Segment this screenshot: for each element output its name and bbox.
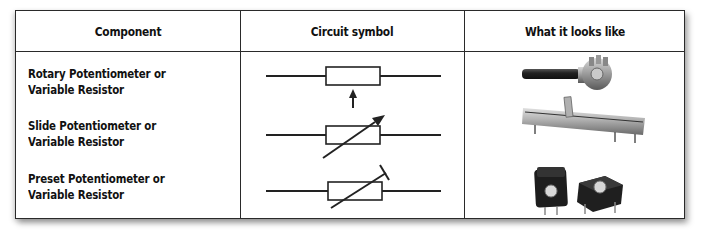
row-2-component-line1: Slide Potentiometer or (28, 117, 156, 134)
component-photos (465, 52, 686, 219)
rotary-potentiometer-symbol-icon (266, 67, 441, 108)
slide-potentiometer-symbol-icon (266, 115, 441, 158)
rotary-potentiometer-photo (522, 55, 612, 90)
row-2-component-line2: Variable Resistor (28, 133, 124, 150)
component-table: Component Circuit symbol What it looks l… (15, 10, 685, 219)
preset-potentiometer-photo (534, 167, 623, 215)
row-3-component-line2: Variable Resistor (28, 186, 124, 203)
header-component: Component (36, 11, 220, 51)
row-1-component-line2: Variable Resistor (28, 81, 124, 98)
table-header-row: Component Circuit symbol What it looks l… (16, 11, 684, 52)
row-3-component-line1: Preset Potentiometer or (28, 170, 165, 187)
header-what-it-looks-like: What it looks like (484, 11, 666, 51)
preset-potentiometer-symbol-icon (266, 165, 441, 208)
row-1-component-line1: Rotary Potentiometer or (28, 65, 166, 82)
header-circuit-symbol: Circuit symbol (260, 11, 444, 51)
slide-potentiometer-photo (522, 97, 645, 143)
circuit-symbols (241, 52, 464, 219)
